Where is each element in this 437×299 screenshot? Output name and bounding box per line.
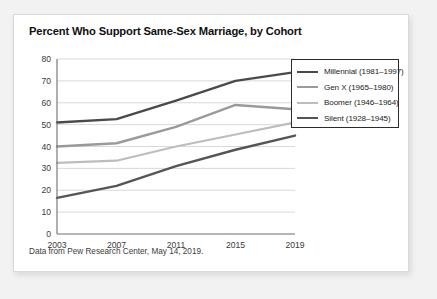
legend-swatch-genx [297, 86, 318, 88]
legend-swatch-boomer [297, 102, 318, 104]
legend-swatch-millennial [297, 71, 318, 73]
series-line-0 [57, 72, 295, 122]
line-chart-svg: 01020304050607080 20032007201120152019 [14, 15, 410, 273]
legend-swatch-silent [297, 117, 318, 119]
legend-item-genx: Gen X (1965–1980) [292, 80, 398, 96]
plot-area: 01020304050607080 20032007201120152019 [14, 15, 410, 273]
legend-item-millennial: Millennial (1981–1997) [292, 64, 398, 80]
legend-label-boomer: Boomer (1946–1964) [324, 98, 399, 107]
y-tick-30: 30 [41, 163, 51, 173]
y-tick-60: 60 [41, 98, 51, 108]
y-tick-50: 50 [41, 120, 51, 130]
legend-item-boomer: Boomer (1946–1964) [292, 95, 398, 111]
y-tick-70: 70 [41, 76, 51, 86]
chart-legend: Millennial (1981–1997) Gen X (1965–1980)… [291, 59, 399, 128]
x-tick-2019: 2019 [285, 240, 304, 250]
y-tick-80: 80 [41, 54, 51, 64]
series-lines [57, 72, 295, 198]
y-tick-0: 0 [46, 229, 51, 239]
y-tick-40: 40 [41, 142, 51, 152]
series-line-1 [57, 105, 295, 147]
legend-label-genx: Gen X (1965–1980) [324, 83, 393, 92]
y-tick-10: 10 [41, 207, 51, 217]
y-tick-20: 20 [41, 185, 51, 195]
source-caption: Data from Pew Research Center, May 14, 2… [29, 247, 203, 256]
gridlines [57, 59, 295, 212]
legend-item-silent: Silent (1928–1945) [292, 111, 398, 127]
chart-card: Percent Who Support Same-Sex Marriage, b… [13, 14, 409, 272]
x-tick-2015: 2015 [226, 240, 245, 250]
y-axis-tick-labels: 01020304050607080 [41, 54, 51, 239]
series-line-2 [57, 122, 295, 162]
legend-label-silent: Silent (1928–1945) [324, 114, 391, 123]
legend-label-millennial: Millennial (1981–1997) [324, 67, 404, 76]
